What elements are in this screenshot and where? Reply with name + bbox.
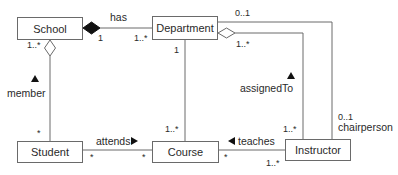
label-has: has <box>110 11 127 23</box>
direction-arrow-up-icon <box>287 72 295 79</box>
label-assignedTo: assignedTo <box>240 82 293 94</box>
label-chairperson: chairperson <box>338 121 393 133</box>
class-name-course: Course <box>168 146 203 158</box>
class-name-school: School <box>33 23 67 35</box>
association-has: has 1 1..* <box>83 11 152 43</box>
mult-has-school: 1 <box>98 33 103 43</box>
class-school: School <box>18 18 83 40</box>
uml-class-diagram: has 1 1..* 1..* member * 1 1..* 1..* ass… <box>0 0 398 175</box>
class-name-instructor: Instructor <box>295 144 341 156</box>
mult-dept-course-department: 1 <box>174 45 179 55</box>
direction-arrow-left-icon <box>228 137 235 145</box>
class-department: Department <box>153 17 218 40</box>
association-assignedTo: 1..* assignedTo 1..* <box>218 28 303 139</box>
class-student: Student <box>18 142 83 163</box>
mult-assignedTo-instructor: 1..* <box>283 124 297 134</box>
label-member: member <box>7 87 46 99</box>
mult-member-student: * <box>37 128 41 138</box>
mult-attends-course: * <box>142 152 146 162</box>
direction-arrow-right-icon <box>131 137 138 145</box>
mult-attends-student: * <box>90 152 94 162</box>
mult-teaches-course: * <box>224 152 228 162</box>
mult-teaches-instructor: 1..* <box>266 158 280 168</box>
association-attends: attends * * <box>83 135 152 162</box>
mult-member-school: 1..* <box>27 40 41 50</box>
mult-has-department: 1..* <box>134 33 148 43</box>
label-attends: attends <box>96 135 130 147</box>
class-name-department: Department <box>156 22 213 34</box>
class-name-student: Student <box>31 146 69 158</box>
class-instructor: Instructor <box>286 140 351 161</box>
aggregation-diamond-icon <box>45 40 56 56</box>
association-teaches: teaches * 1..* <box>219 135 285 168</box>
mult-chairperson-department: 0..1 <box>235 8 250 18</box>
label-teaches: teaches <box>238 135 275 147</box>
mult-assignedTo-department: 1..* <box>236 39 250 49</box>
class-course: Course <box>153 142 219 163</box>
association-chairperson: 0..1 0..1 chairperson <box>218 8 393 139</box>
association-member: 1..* member * <box>7 40 56 141</box>
mult-dept-course-course: 1..* <box>165 124 179 134</box>
direction-arrow-up-icon <box>31 75 39 82</box>
association-department-course: 1 1..* <box>165 40 185 141</box>
aggregation-diamond-icon <box>218 28 235 38</box>
